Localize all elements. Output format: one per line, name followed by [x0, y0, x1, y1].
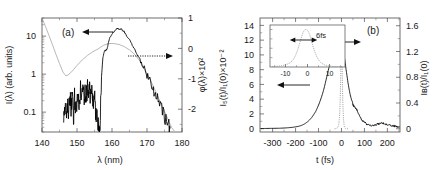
panel-b-x-tick-label: 0: [339, 138, 344, 148]
panel-b-x-axis-title: t (fs): [316, 155, 334, 165]
panel-b-y-tick-label: 4: [249, 94, 254, 104]
panel-b-right-arrow-head: [354, 39, 361, 45]
panel-a-y-axis-title: I(λ) (arb. units): [4, 46, 14, 105]
panel-b-y-tick-label: 0: [249, 124, 254, 134]
panel-a-x-tick-label: 140: [34, 138, 49, 148]
panel-a-y-tick-label: 0.1: [23, 107, 36, 117]
panel-a-x-tick-label: 160: [104, 138, 119, 148]
panel-b-left-arrow-head: [277, 82, 284, 88]
scientific-figure: 1401501601701801010.110-1-2 (a) λ (nm) I…: [0, 0, 437, 170]
panel-b-y-axis-title: I₅(t)/I₁(0)×10⁻²: [218, 50, 228, 107]
panel-b-y-tick-label: 8: [249, 65, 254, 75]
panel-b-y2-tick-label: 0.4: [406, 98, 419, 108]
panel-a-y-tick-label: 1: [31, 69, 36, 79]
panel-b-x-tick-label: -200: [287, 138, 305, 148]
panel-b-temporal: -300-200-10001002000246810121400.40.81.2…: [215, 0, 437, 170]
panel-b-y2-tick-label: 0.8: [406, 72, 419, 82]
panel-a-y-tick-label: 10: [26, 31, 36, 41]
panel-a-right-axis-arrow: [128, 53, 173, 59]
panel-b-x-tick-label: 200: [380, 138, 395, 148]
panel-b-y-tick-label: 6: [249, 80, 254, 90]
panel-b-y2-tick-label: 1.2: [406, 47, 419, 57]
panel-b-label: (b): [367, 25, 379, 36]
panel-a-x-tick-label: 150: [69, 138, 84, 148]
panel-b-y-tick-label: 12: [244, 35, 254, 45]
panel-b-left-axis-arrow: [277, 82, 310, 88]
panel-b-x-tick-label: -100: [310, 138, 328, 148]
panel-b-svg: -300-200-10001002000246810121400.40.81.2…: [215, 0, 437, 170]
panel-b-y-tick-label: 14: [244, 21, 254, 31]
panel-a-y2-tick-label: -2: [188, 104, 196, 114]
inset-x-tick-label: -10: [280, 70, 290, 77]
panel-a-y2-axis-title: φ(λ)×10²: [197, 58, 207, 93]
panel-b-x-tick-label: 100: [357, 138, 372, 148]
inset-duration-annotation: 6fs: [316, 31, 326, 40]
panel-a-label: (a): [62, 27, 74, 38]
panel-a-x-axis-title: λ (nm): [97, 155, 123, 165]
panel-a-left-axis-arrow: [82, 29, 113, 35]
panel-b-y2-axis-title: Iʙ(t)/I₁(0): [419, 61, 429, 96]
panel-a-y2-tick-label: 1: [188, 13, 193, 23]
panel-b-y2-tick-label: 0: [406, 124, 411, 134]
panel-b-y-tick-label: 10: [244, 50, 254, 60]
inset-x-tick-label: 10: [326, 70, 334, 77]
panel-a-x-tick-label: 170: [139, 138, 154, 148]
panel-a-left-arrow-head: [82, 29, 89, 35]
panel-b-y2-tick-label: 1.6: [406, 21, 419, 31]
panel-a-spectrum: 1401501601701801010.110-1-2 (a) λ (nm) I…: [0, 0, 220, 170]
panel-b-y-tick-label: 2: [249, 109, 254, 119]
panel-b-inset: -10010: [270, 25, 345, 77]
panel-a-y2-tick-label: 0: [188, 44, 193, 54]
panel-a-y2-tick-label: -1: [188, 74, 196, 84]
panel-b-x-tick-label: -300: [264, 138, 282, 148]
panel-a-svg: 1401501601701801010.110-1-2 (a) λ (nm) I…: [0, 0, 220, 170]
panel-a-right-arrow-head: [166, 53, 173, 59]
inset-x-tick-label: 0: [306, 70, 310, 77]
inset-frame: [270, 25, 345, 67]
panel-a-x-tick-label: 180: [174, 138, 189, 148]
